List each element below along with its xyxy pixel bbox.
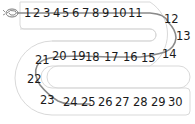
track-number: 7 xyxy=(82,6,89,20)
track-number: 8 xyxy=(92,6,99,20)
track-number: 13 xyxy=(176,29,191,43)
track-number: 9 xyxy=(102,6,109,20)
track-number: 6 xyxy=(72,6,79,20)
track-inner-slot-bottom xyxy=(47,66,190,88)
track-number: 20 xyxy=(52,49,67,63)
track-number: 25 xyxy=(81,95,96,109)
track-number: 26 xyxy=(98,95,113,109)
track-number: 19 xyxy=(71,49,86,63)
track-number: 17 xyxy=(104,50,119,64)
track-number: 4 xyxy=(53,6,60,20)
track-number: 12 xyxy=(164,12,179,26)
track-number: 16 xyxy=(123,50,138,64)
track-number: 18 xyxy=(85,50,100,64)
track-number: 21 xyxy=(35,53,50,67)
track-number: 1 xyxy=(24,6,31,20)
track-number: 11 xyxy=(128,6,143,20)
track-number: 2 xyxy=(33,6,40,20)
number-track-worksheet: 1 2 3 4 5 6 7 8 9 10 11 12 13 14 15 16 1… xyxy=(0,0,195,124)
track-number: 30 xyxy=(168,95,183,109)
track-number: 28 xyxy=(133,95,148,109)
track-number: 15 xyxy=(141,51,156,65)
track-number: 29 xyxy=(151,95,166,109)
track-number: 27 xyxy=(115,95,130,109)
snail-scribble-icon xyxy=(3,9,18,17)
track-number: 14 xyxy=(162,47,177,61)
track-number: 22 xyxy=(27,72,42,86)
track-number: 24 xyxy=(63,95,78,109)
track-number: 23 xyxy=(40,93,55,107)
track-inner-slot-top xyxy=(20,29,156,41)
worksheet-canvas: 1 2 3 4 5 6 7 8 9 10 11 12 13 14 15 16 1… xyxy=(0,0,195,124)
track-numbers: 1 2 3 4 5 6 7 8 9 10 11 12 13 14 15 16 1… xyxy=(24,6,191,109)
track-number: 10 xyxy=(112,6,127,20)
track-number: 3 xyxy=(43,6,50,20)
track-number: 5 xyxy=(62,6,69,20)
